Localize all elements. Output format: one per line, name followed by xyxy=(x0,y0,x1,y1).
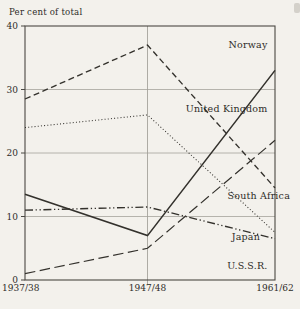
line-chart: 010203040Per cent of total1937/381947/48… xyxy=(0,0,300,309)
y-tick-label-30: 30 xyxy=(7,85,19,95)
y-axis-title: Per cent of total xyxy=(9,7,82,17)
series-label-japan: Japan xyxy=(231,231,260,242)
chart-area: 010203040Per cent of total1937/381947/48… xyxy=(0,0,300,309)
y-tick-label-40: 40 xyxy=(7,21,19,31)
y-tick-label-10: 10 xyxy=(7,212,19,222)
x-tick-label-0: 1937/38 xyxy=(2,283,40,293)
series-label-united-kingdom: United Kingdom xyxy=(186,103,268,114)
series-label-south-africa: South Africa xyxy=(228,190,291,201)
series-label-norway: Norway xyxy=(229,39,268,50)
scanned-page: 010203040Per cent of total1937/381947/48… xyxy=(0,0,300,309)
x-tick-label-1: 1947/48 xyxy=(129,283,167,293)
y-tick-label-20: 20 xyxy=(7,148,19,158)
series-label-u-s-s-r-: U.S.S.R. xyxy=(227,260,267,271)
x-tick-label-2: 1961/62 xyxy=(256,283,293,293)
scan-artifact xyxy=(294,3,300,13)
